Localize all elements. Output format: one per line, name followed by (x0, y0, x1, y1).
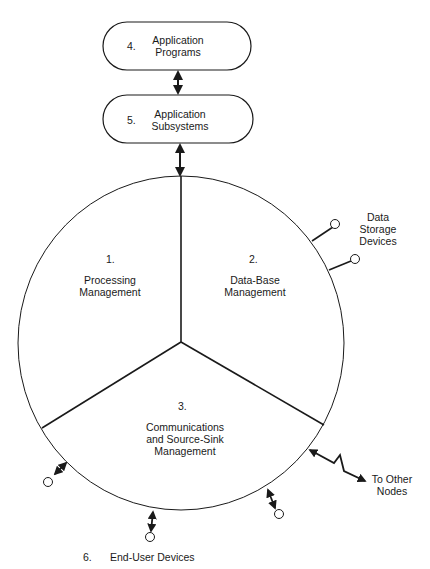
end-user-link-bottom (151, 512, 153, 531)
sector-3-label: Communications and Source-Sink Managemen… (140, 421, 230, 457)
box-5-line2: Subsystems (148, 120, 212, 132)
box-4-number: 4. (127, 40, 136, 52)
storage-device-2-icon (351, 255, 360, 264)
storage-line1: Data (356, 211, 400, 223)
box-4-label: Application Programs (148, 34, 208, 58)
sector-3-number: 3. (178, 400, 187, 412)
sector-1-number: 1. (106, 253, 115, 265)
end-user-link-left (55, 463, 66, 474)
sector-2-number: 2. (249, 253, 258, 265)
end-user-number: 6. (83, 551, 92, 563)
diagram-canvas (0, 0, 430, 569)
spoke-left (42, 342, 181, 428)
sector-3-line2: and Source-Sink (140, 433, 230, 445)
end-user-link-right (268, 490, 275, 508)
data-storage-devices-label: Data Storage Devices (356, 211, 400, 247)
storage-link-1 (312, 227, 333, 241)
box-5-number: 5. (127, 114, 136, 126)
sector-1-line2: Management (75, 286, 145, 298)
storage-line3: Devices (356, 235, 400, 247)
storage-device-1-icon (331, 220, 340, 229)
storage-link-2 (329, 261, 351, 270)
spoke-right (181, 342, 324, 425)
box-5-line1: Application (148, 108, 212, 120)
sector-2-label: Data-Base Management (220, 274, 290, 298)
end-user-device-left-icon (44, 478, 53, 487)
sector-1-label: Processing Management (75, 274, 145, 298)
sector-2-line2: Management (220, 286, 290, 298)
sector-3-line1: Communications (140, 421, 230, 433)
nodes-line1: To Other (368, 473, 416, 485)
storage-line2: Storage (356, 223, 400, 235)
to-other-nodes-link (310, 450, 365, 481)
box-5-label: Application Subsystems (148, 108, 212, 132)
end-user-device-bottom-icon (146, 533, 155, 542)
to-other-nodes-label: To Other Nodes (368, 473, 416, 497)
sector-2-line1: Data-Base (220, 274, 290, 286)
sector-3-line3: Management (140, 445, 230, 457)
box-4-line2: Programs (148, 46, 208, 58)
sector-1-line1: Processing (75, 274, 145, 286)
nodes-line2: Nodes (368, 485, 416, 497)
end-user-device-right-icon (275, 510, 284, 519)
box-4-line1: Application (148, 34, 208, 46)
end-user-devices-label: End-User Devices (110, 551, 195, 563)
